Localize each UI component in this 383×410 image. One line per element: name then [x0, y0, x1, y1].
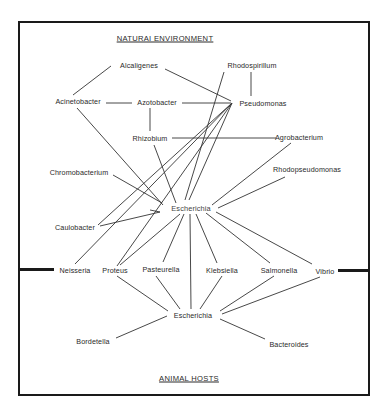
natural-environment-heading: NATURAI ENVIRONMENT — [117, 34, 214, 43]
node-salmonella: Salmonella — [261, 266, 298, 275]
node-escherichia-environment: Escherichia — [170, 204, 211, 213]
node-bordetella: Bordetella — [76, 337, 109, 346]
bacterial-relationship-diagram: NATURAI ENVIRONMENT ANIMAL HOSTS Alcalig… — [0, 0, 383, 410]
node-azotobacter: Azotobacter — [137, 98, 176, 107]
node-agrobacterium: Agrobacterium — [275, 133, 323, 142]
node-neisseria: Neisseria — [60, 266, 91, 275]
animal-hosts-heading: ANIMAL HOSTS — [159, 374, 219, 383]
node-rhizobium: Rhizobium — [133, 134, 168, 143]
node-chromobacterium: Chromobacterium — [50, 168, 109, 177]
node-proteus: Proteus — [102, 266, 127, 275]
node-alcaligenes: Alcaligenes — [120, 61, 158, 70]
node-escherichia-host: Escherichia — [174, 311, 212, 320]
node-bacteroides: Bacteroides — [269, 340, 308, 349]
node-caulobacter: Caulobacter — [55, 223, 95, 232]
node-rhodospirillum: Rhodospirillum — [228, 61, 277, 70]
node-vibrio: Vibrio — [316, 267, 335, 276]
node-klebsiella: Klebsiella — [206, 266, 238, 275]
node-pasteurella: Pasteurella — [142, 265, 179, 274]
node-rhodopseudomonas: Rhodopseudomonas — [273, 165, 341, 174]
node-acinetobacter: Acinetobacter — [55, 97, 100, 106]
node-pseudomonas: Pseudomonas — [239, 99, 286, 108]
